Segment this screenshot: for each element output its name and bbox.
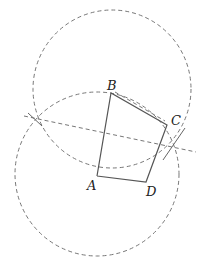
label-point-d: D [145, 184, 157, 199]
label-point-b: B [106, 78, 117, 93]
label-point-a: A [86, 178, 96, 193]
dashed-guide-line [115, 92, 165, 121]
label-point-c: C [171, 113, 181, 128]
construction-diagram: A B C D [0, 0, 205, 270]
quadrilateral-ABCD [97, 93, 167, 182]
arc-mark-right [163, 128, 185, 160]
